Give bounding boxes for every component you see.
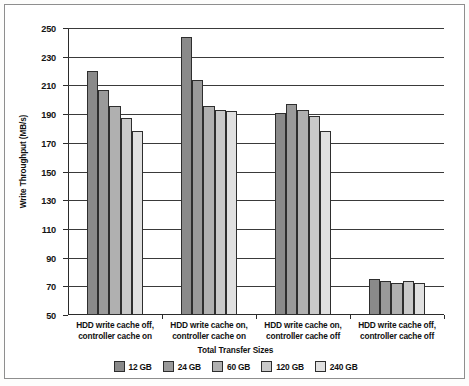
bar xyxy=(98,90,109,315)
chart-legend: 12 GB24 GB60 GB120 GB240 GB xyxy=(5,361,466,372)
bar xyxy=(309,116,320,315)
y-tick-label-130: 130 xyxy=(41,196,56,206)
bar xyxy=(121,118,132,315)
chart-figure: Write Throughput (MB/s) 2502302101901701… xyxy=(0,0,469,386)
legend-item: 60 GB xyxy=(212,361,250,372)
legend-label: 120 GB xyxy=(276,362,304,372)
legend-label: 240 GB xyxy=(330,362,358,372)
category-separator xyxy=(162,315,163,319)
y-tick-label-90: 90 xyxy=(46,254,56,264)
category-label-line: controller cache off xyxy=(256,331,350,342)
bar xyxy=(286,104,297,315)
y-tick-150: 150 xyxy=(63,172,68,173)
legend-item: 240 GB xyxy=(315,361,358,372)
y-tick-label-250: 250 xyxy=(41,24,56,34)
category-separator xyxy=(350,315,351,319)
bar xyxy=(275,113,286,315)
bar xyxy=(320,131,331,315)
y-tick-170: 170 xyxy=(63,143,68,144)
gridline-250 xyxy=(68,28,444,29)
gridline-190 xyxy=(68,114,444,115)
y-tick-label-190: 190 xyxy=(41,110,56,120)
category-label: HDD write cache off,controller cache off xyxy=(350,320,444,341)
category-separator xyxy=(256,315,257,319)
bar xyxy=(403,281,414,315)
category-label: HDD write cache on,controller cache on xyxy=(162,320,256,341)
bar xyxy=(414,283,425,315)
category-label-line: HDD write cache off, xyxy=(68,320,162,331)
y-tick-90: 90 xyxy=(63,258,68,259)
y-tick-110: 110 xyxy=(63,229,68,230)
bar xyxy=(181,37,192,315)
legend-label: 24 GB xyxy=(178,362,201,372)
y-tick-50: 50 xyxy=(63,315,68,316)
y-tick-130: 130 xyxy=(63,200,68,201)
y-tick-label-170: 170 xyxy=(41,139,56,149)
y-tick-label-50: 50 xyxy=(46,311,56,321)
legend-swatch-icon xyxy=(212,361,223,372)
category-label-line: HDD write cache off, xyxy=(350,320,444,331)
legend-item: 12 GB xyxy=(114,361,152,372)
y-tick-70: 70 xyxy=(63,286,68,287)
legend-swatch-icon xyxy=(114,361,125,372)
legend-item: 24 GB xyxy=(163,361,201,372)
bar xyxy=(297,110,308,315)
bar xyxy=(203,106,214,316)
x-axis-title: Total Transfer Sizes xyxy=(5,345,466,355)
y-tick-label-210: 210 xyxy=(41,81,56,91)
category-label-line: controller cache off xyxy=(350,331,444,342)
y-tick-label-110: 110 xyxy=(42,225,56,235)
bar xyxy=(369,279,380,315)
chart-frame: Write Throughput (MB/s) 2502302101901701… xyxy=(4,4,465,379)
y-tick-label-70: 70 xyxy=(46,282,56,292)
bar xyxy=(391,283,402,315)
bar xyxy=(380,281,391,315)
legend-label: 12 GB xyxy=(129,362,152,372)
bar xyxy=(87,71,98,315)
category-label: HDD write cache on,controller cache off xyxy=(256,320,350,341)
category-label-line: controller cache on xyxy=(162,331,256,342)
bar xyxy=(226,111,237,315)
category-label-line: HDD write cache on, xyxy=(256,320,350,331)
legend-swatch-icon xyxy=(315,361,326,372)
plot-area: 250230210190170150130110907050 xyxy=(68,28,444,315)
y-tick-label-230: 230 xyxy=(41,53,56,63)
y-axis-title: Write Throughput (MB/s) xyxy=(19,82,28,242)
legend-item: 120 GB xyxy=(261,361,304,372)
legend-swatch-icon xyxy=(261,361,272,372)
bar xyxy=(215,110,226,315)
y-tick-250: 250 xyxy=(63,28,68,29)
y-tick-210: 210 xyxy=(63,85,68,86)
bar xyxy=(192,80,203,315)
y-tick-label-150: 150 xyxy=(41,168,56,178)
y-tick-230: 230 xyxy=(63,57,68,58)
legend-label: 60 GB xyxy=(227,362,250,372)
category-label: HDD write cache off,controller cache on xyxy=(68,320,162,341)
bar xyxy=(109,106,120,316)
category-separator xyxy=(444,315,445,319)
gridline-230 xyxy=(68,57,444,58)
category-label-line: controller cache on xyxy=(68,331,162,342)
y-tick-190: 190 xyxy=(63,114,68,115)
legend-swatch-icon xyxy=(163,361,174,372)
gridline-210 xyxy=(68,85,444,86)
bar xyxy=(132,131,143,315)
category-label-line: HDD write cache on, xyxy=(162,320,256,331)
